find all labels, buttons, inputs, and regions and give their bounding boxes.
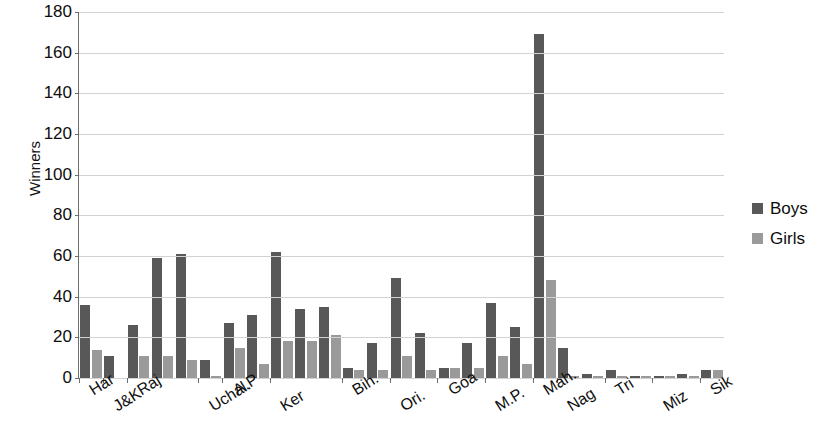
bar-boys [439,368,449,378]
bar-boys [391,278,401,378]
y-axis-tickmark [75,175,79,176]
gridline [79,337,724,338]
gridline [79,12,724,13]
y-axis-tickmark [75,12,79,13]
legend-label: Girls [770,230,805,247]
bar-girls [187,360,197,378]
x-axis-tick-label: M.P. [492,384,528,416]
bar-boys [128,325,138,378]
y-axis-tickmark [75,337,79,338]
x-axis-tick-label: Miz [660,387,691,415]
bar-boys [319,307,329,378]
x-axis-tick-label: Nag [564,384,598,415]
chart-legend: BoysGirls [752,193,828,253]
y-axis-tick-label: 80 [28,206,72,223]
y-axis-tickmark [75,134,79,135]
legend-swatch-icon [752,203,763,214]
bar-boys [701,370,711,378]
y-axis-tickmark [75,53,79,54]
y-axis-tick-label: 100 [28,166,72,183]
bar-boys [271,252,281,378]
bar-boys [510,327,520,378]
y-axis-tickmark [75,256,79,257]
y-axis-tick-label: 60 [28,247,72,264]
y-axis-tick-label: 160 [28,44,72,61]
y-axis-tickmark [75,93,79,94]
y-axis-tick-label: 120 [28,125,72,142]
gridline [79,134,724,135]
gridline [79,175,724,176]
y-axis-tickmark [75,297,79,298]
bar-girls [402,356,412,378]
legend-swatch-icon [752,233,763,244]
bar-girls [546,280,556,378]
y-axis-tick-label: 180 [28,3,72,20]
x-axis-tick-label: Tri [612,374,637,399]
bar-boys [152,258,162,378]
y-axis-tick-label: 20 [28,328,72,345]
bar-boys [534,34,544,378]
plot-area [78,12,724,379]
bar-boys [486,303,496,378]
gridline [79,215,724,216]
y-axis-tick-label: 140 [28,84,72,101]
chart-screenshot: Winners 020406080100120140160180 HarJ&KR… [0,0,828,443]
bar-boys [606,370,616,378]
x-axis-tick-labels: HarJ&KRajUchal.A.PKerBih.Ori.GoaM.P.Mah.… [78,378,723,443]
bar-girls [163,356,173,378]
bars-layer [79,12,724,378]
bar-boys [247,315,257,378]
gridline [79,93,724,94]
gridline [79,53,724,54]
x-axis-tick-label: Ker [277,387,308,415]
gridline [79,297,724,298]
bar-girls [331,335,341,378]
bar-girls [378,370,388,378]
bar-boys [80,305,90,378]
legend-item: Girls [752,223,828,253]
y-axis-tick-label: 0 [28,369,72,386]
x-axis-tick-label: Ori. [397,386,428,415]
bar-boys [295,309,305,378]
y-axis-tick-label: 40 [28,288,72,305]
bar-boys [176,254,186,378]
bar-girls [522,364,532,378]
bar-girls [259,364,269,378]
gridline [79,256,724,257]
bar-girls [426,370,436,378]
bar-boys [224,323,234,378]
bar-boys [200,360,210,378]
legend-label: Boys [770,200,808,217]
legend-item: Boys [752,193,828,223]
bar-boys [343,368,353,378]
bar-girls [235,348,245,379]
bar-boys [415,333,425,378]
bar-girls [307,341,317,378]
bar-girls [283,341,293,378]
bar-girls [498,356,508,378]
y-axis-tick-labels: 020406080100120140160180 [28,0,72,390]
y-axis-tickmark [75,215,79,216]
